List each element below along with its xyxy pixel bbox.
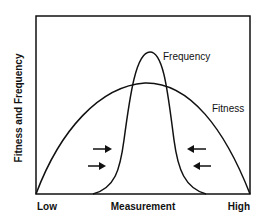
arrow-right-icon (88, 162, 106, 170)
arrow-right-icon (93, 145, 112, 153)
frequency-curve (93, 52, 206, 194)
fitness-label: Fitness (212, 103, 244, 114)
arrow-left-icon (193, 162, 211, 170)
x-low-label: Low (37, 201, 57, 212)
fitness-curve (36, 83, 250, 194)
arrow-left-icon (187, 145, 206, 153)
y-axis-label: Fitness and Frequency (13, 53, 24, 162)
stabilizing-selection-diagram: Frequency Fitness Low Measurement High F… (0, 0, 274, 224)
frequency-label: Frequency (163, 51, 210, 62)
x-axis-label: Measurement (111, 201, 176, 212)
x-high-label: High (228, 201, 250, 212)
